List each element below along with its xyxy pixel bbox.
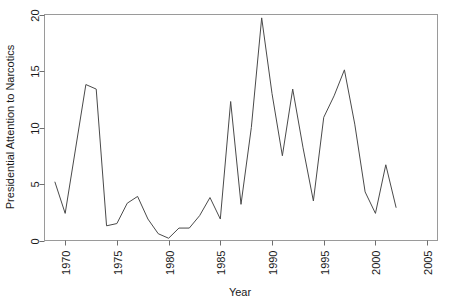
y-tick-label: 15 [29, 65, 41, 77]
x-tick-label: 1995 [319, 251, 331, 275]
x-axis-title: Year [229, 286, 252, 298]
line-chart: 05101520 1970197519801985199019952000200… [0, 0, 453, 304]
y-tick-label: 10 [29, 122, 41, 134]
x-tick-label: 1990 [267, 251, 279, 275]
plot-frame-rect [45, 15, 438, 241]
data-series-line [55, 18, 396, 238]
x-axis-tick-labels: 19701975198019851990199520002005 [60, 251, 434, 275]
y-tick-label: 0 [29, 238, 41, 244]
y-axis-tick-labels: 05101520 [29, 9, 41, 244]
y-tick-label: 5 [29, 181, 41, 187]
y-tick-label: 20 [29, 9, 41, 21]
y-axis-title: Presidential Attention to Narcotics [4, 44, 16, 209]
x-tick-label: 1980 [164, 251, 176, 275]
chart-container: 05101520 1970197519801985199019952000200… [0, 0, 453, 304]
x-tick-label: 2000 [370, 251, 382, 275]
x-tick-label: 1970 [60, 251, 72, 275]
x-tick-label: 2005 [422, 251, 434, 275]
plot-frame [45, 15, 438, 241]
x-tick-label: 1985 [215, 251, 227, 275]
x-axis-ticks [66, 241, 428, 246]
x-tick-label: 1975 [112, 251, 124, 275]
